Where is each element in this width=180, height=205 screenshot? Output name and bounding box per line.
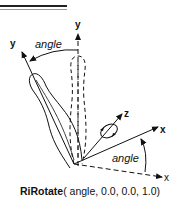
caption-function-name: RiRotate (20, 185, 63, 197)
angle-bottom-label: angle (112, 152, 139, 164)
angle-arc-top (30, 50, 78, 61)
caption-arguments: ( angle, 0.0, 0.0, 1.0) (63, 185, 160, 197)
rotated-x-label: x (160, 124, 166, 135)
rotation-diagram: y x y x z angle angle (0, 0, 180, 185)
angle-top-label: angle (35, 38, 62, 50)
original-x-axis (74, 164, 162, 177)
rotated-pin-outline (29, 74, 82, 168)
angle-arc-bottom (141, 139, 146, 172)
original-y-label: y (75, 19, 81, 30)
z-label: z (124, 108, 129, 119)
rotated-y-label: y (10, 38, 16, 49)
figure-caption: RiRotate( angle, 0.0, 0.0, 1.0) (0, 185, 180, 197)
rotated-y-axis (22, 52, 74, 164)
original-x-label: x (164, 172, 169, 183)
